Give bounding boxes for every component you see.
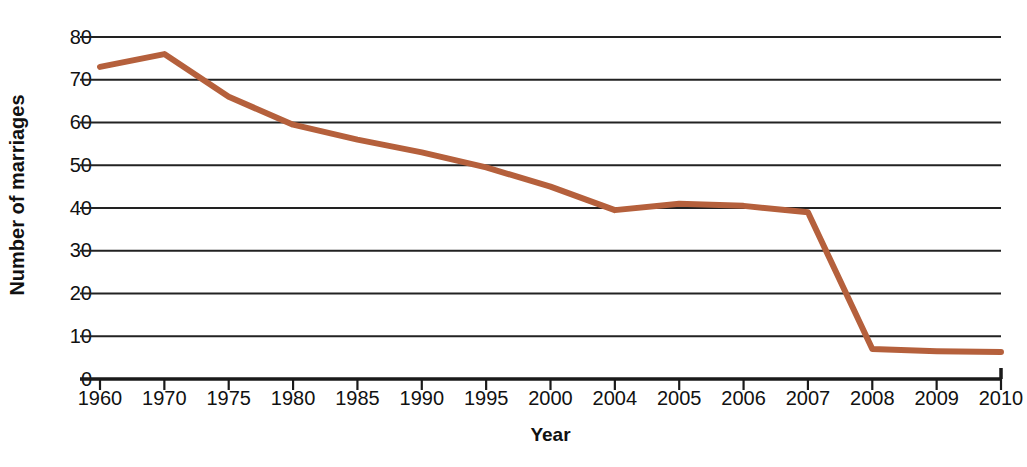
x-tick-label: 1990 [387, 388, 457, 408]
x-tick-label: 2008 [837, 388, 907, 408]
x-tick-label: 2009 [902, 388, 972, 408]
x-tick-label: 2000 [516, 388, 586, 408]
x-tick-label: 2007 [773, 388, 843, 408]
x-tick-label: 1995 [451, 388, 521, 408]
x-tick-label: 1970 [129, 388, 199, 408]
x-tick-label: 2006 [709, 388, 779, 408]
x-tick-label: 2005 [644, 388, 714, 408]
x-tick-label: 1985 [322, 388, 392, 408]
x-axis-line [80, 368, 1001, 379]
x-tick-label: 1980 [258, 388, 328, 408]
x-tick-label: 2010 [966, 388, 1027, 408]
data-series-line [100, 54, 1001, 352]
x-tick-label: 2004 [580, 388, 650, 408]
x-tick-label: 1960 [65, 388, 135, 408]
x-tick-label: 1975 [194, 388, 264, 408]
x-axis-title: Year [100, 424, 1001, 446]
